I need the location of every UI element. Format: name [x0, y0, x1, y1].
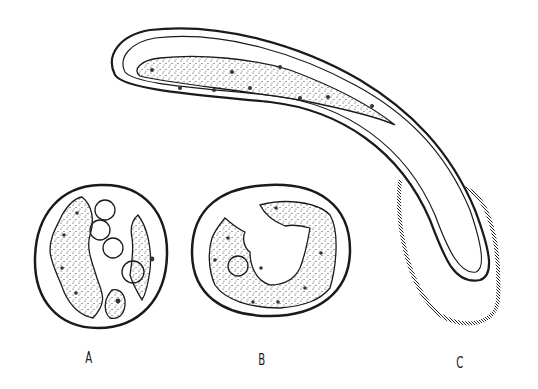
label-b: B [258, 351, 265, 369]
illustration [0, 0, 538, 389]
label-a: A [85, 349, 92, 367]
label-c: C [456, 354, 463, 372]
panel-b [192, 185, 350, 316]
panel-a [35, 185, 167, 328]
